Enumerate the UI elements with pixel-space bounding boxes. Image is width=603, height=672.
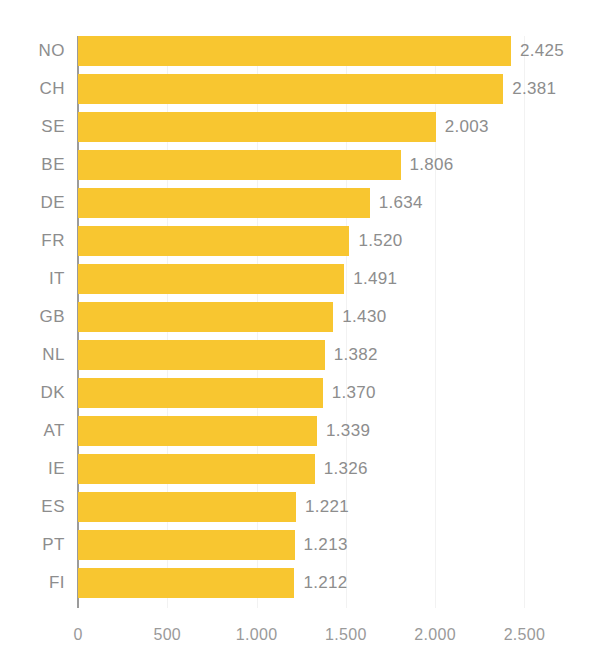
bar-row[interactable]: CH2.381 [78, 74, 578, 104]
bar-value-label: 1.370 [332, 378, 376, 408]
x-tick-label: 2.000 [414, 626, 456, 644]
bar-value-label: 1.634 [379, 188, 423, 218]
bar-value-label: 1.382 [334, 340, 378, 370]
bar[interactable] [78, 530, 295, 560]
category-label: GB [39, 302, 65, 332]
bar[interactable] [78, 74, 503, 104]
bar-row[interactable]: FI1.212 [78, 568, 578, 598]
category-label: NO [39, 36, 66, 66]
bar-value-label: 1.339 [326, 416, 370, 446]
bar-value-label: 1.212 [303, 568, 347, 598]
bar-row[interactable]: ES1.221 [78, 492, 578, 522]
category-label: IE [48, 454, 65, 484]
bar-row[interactable]: FR1.520 [78, 226, 578, 256]
bar[interactable] [78, 302, 333, 332]
category-label: SE [41, 112, 65, 142]
x-tick-label: 2.500 [504, 626, 546, 644]
x-axis: 05001.0001.5002.0002.500 [78, 614, 578, 654]
bar-row[interactable]: IT1.491 [78, 264, 578, 294]
bar[interactable] [78, 112, 436, 142]
category-label: DK [40, 378, 65, 408]
bar-chart: NO2.425CH2.381SE2.003BE1.806DE1.634FR1.5… [0, 0, 603, 672]
category-label: ES [41, 492, 65, 522]
bar[interactable] [78, 264, 344, 294]
bar[interactable] [78, 416, 317, 446]
bar-value-label: 1.326 [324, 454, 368, 484]
bar[interactable] [78, 454, 315, 484]
bar-row[interactable]: DK1.370 [78, 378, 578, 408]
category-label: PT [42, 530, 65, 560]
category-label: AT [44, 416, 65, 446]
category-label: DE [40, 188, 65, 218]
bar-row[interactable]: GB1.430 [78, 302, 578, 332]
category-label: NL [42, 340, 65, 370]
bar[interactable] [78, 492, 296, 522]
bar[interactable] [78, 188, 370, 218]
category-label: FI [49, 568, 65, 598]
bar-value-label: 1.491 [353, 264, 397, 294]
bar[interactable] [78, 150, 401, 180]
bar[interactable] [78, 340, 325, 370]
category-label: CH [39, 74, 65, 104]
plot-area: NO2.425CH2.381SE2.003BE1.806DE1.634FR1.5… [78, 36, 578, 608]
bar-row[interactable]: AT1.339 [78, 416, 578, 446]
bar-row[interactable]: NO2.425 [78, 36, 578, 66]
category-label: IT [49, 264, 65, 294]
bar-row[interactable]: DE1.634 [78, 188, 578, 218]
bar-value-label: 1.430 [342, 302, 386, 332]
bar-value-label: 1.806 [410, 150, 454, 180]
bar-value-label: 1.520 [358, 226, 402, 256]
x-tick-label: 0 [73, 626, 82, 644]
bar-value-label: 2.381 [512, 74, 556, 104]
bar-value-label: 2.425 [520, 36, 564, 66]
category-label: BE [41, 150, 65, 180]
x-tick-label: 1.500 [325, 626, 367, 644]
bar-row[interactable]: BE1.806 [78, 150, 578, 180]
x-tick-label: 1.000 [236, 626, 278, 644]
x-tick-label: 500 [153, 626, 181, 644]
bar-row[interactable]: PT1.213 [78, 530, 578, 560]
bar[interactable] [78, 378, 323, 408]
bar-value-label: 1.221 [305, 492, 349, 522]
bar-value-label: 1.213 [304, 530, 348, 560]
bar-value-label: 2.003 [445, 112, 489, 142]
bar[interactable] [78, 36, 511, 66]
bar[interactable] [78, 226, 349, 256]
bar-row[interactable]: SE2.003 [78, 112, 578, 142]
bar-row[interactable]: IE1.326 [78, 454, 578, 484]
bar[interactable] [78, 568, 294, 598]
bar-row[interactable]: NL1.382 [78, 340, 578, 370]
category-label: FR [41, 226, 65, 256]
